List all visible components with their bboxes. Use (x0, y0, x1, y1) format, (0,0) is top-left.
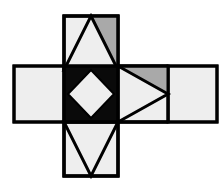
left-face-fill (14, 66, 64, 122)
figure-root (0, 0, 223, 185)
center-face (64, 66, 118, 122)
right-face (118, 66, 168, 122)
bottom-face (64, 122, 118, 176)
far-right-face-fill (168, 66, 217, 122)
top-face (64, 16, 118, 70)
cube-net-diagram (0, 0, 223, 185)
left-face (14, 66, 64, 122)
far-right-face (168, 66, 217, 122)
